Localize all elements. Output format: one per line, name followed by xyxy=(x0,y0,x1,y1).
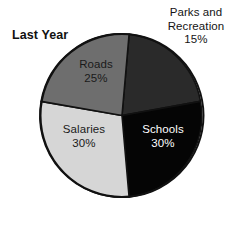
slice-label-salaries: Salaries 30% xyxy=(48,123,120,150)
slice-label-roads-line1: Roads xyxy=(66,58,126,72)
slice-label-parks-line2: Recreation xyxy=(150,20,242,34)
slice-percent-parks: 15% xyxy=(150,33,242,47)
slice-label-schools: Schools 30% xyxy=(132,123,194,150)
slice-percent-schools: 30% xyxy=(132,137,194,151)
slice-label-salaries-line1: Salaries xyxy=(48,123,120,137)
slice-percent-salaries: 30% xyxy=(48,137,120,151)
slice-label-parks-line1: Parks and xyxy=(150,6,242,20)
slice-percent-roads: 25% xyxy=(66,72,126,86)
pie-chart-figure: Last Year Parks and Recreation 15% Roads… xyxy=(0,0,246,227)
slice-label-roads: Roads 25% xyxy=(66,58,126,85)
slice-label-parks-and-recreation: Parks and Recreation 15% xyxy=(150,6,242,47)
slice-label-schools-line1: Schools xyxy=(132,123,194,137)
